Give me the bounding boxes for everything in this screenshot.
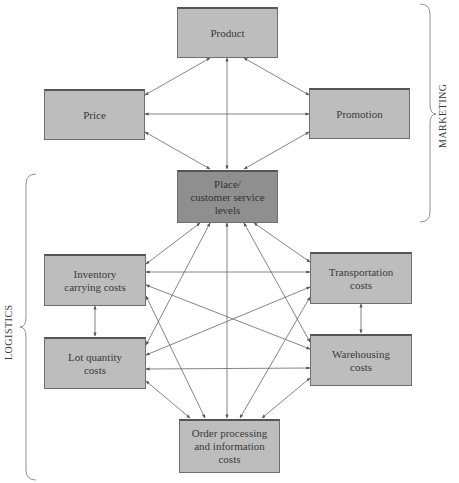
arrow-place-lot: [146, 223, 210, 345]
node-promotion-label: Promotion: [336, 108, 382, 121]
arrow-lot-transportation: [146, 287, 310, 355]
node-inventory-carrying-costs: Inventory carrying costs: [44, 254, 146, 306]
node-price: Price: [44, 89, 145, 140]
node-product: Product: [177, 7, 278, 58]
connector-layer: [0, 0, 459, 483]
arrow-warehousing-order: [262, 378, 310, 418]
node-promotion: Promotion: [309, 88, 410, 139]
logistics-group-label: LOGISTICS: [3, 304, 14, 360]
node-inventory-label: Inventory carrying costs: [64, 268, 125, 294]
node-warehousing-label: Warehousing costs: [332, 348, 390, 374]
arrow-product-price: [145, 58, 210, 95]
logistics-brace: [20, 174, 36, 480]
node-place-label: Place/ customer service levels: [190, 178, 264, 217]
node-product-label: Product: [210, 27, 244, 40]
arrow-lot-warehousing: [146, 368, 310, 369]
marketing-brace: [420, 4, 436, 222]
node-price-label: Price: [83, 109, 106, 122]
marketing-group-label: MARKETING: [437, 84, 448, 149]
arrow-place-warehousing: [244, 223, 310, 342]
node-transportation-costs: Transportation costs: [310, 252, 412, 304]
node-order-processing-costs: Order processing and information costs: [179, 419, 280, 473]
node-lot-quantity-costs: Lot quantity costs: [44, 337, 146, 389]
node-place-customer-service: Place/ customer service levels: [177, 170, 278, 223]
arrow-promotion-place: [244, 132, 309, 169]
arrow-lot-order: [146, 381, 190, 418]
arrow-transportation-order: [240, 297, 310, 418]
node-lot-quantity-label: Lot quantity costs: [68, 351, 122, 377]
node-transportation-label: Transportation costs: [329, 266, 393, 292]
arrow-price-place: [145, 132, 210, 169]
node-warehousing-costs: Warehousing costs: [310, 334, 412, 386]
arrow-product-promotion: [244, 58, 309, 95]
node-order-processing-label: Order processing and information costs: [192, 427, 267, 466]
arrow-inventory-order: [146, 296, 205, 418]
